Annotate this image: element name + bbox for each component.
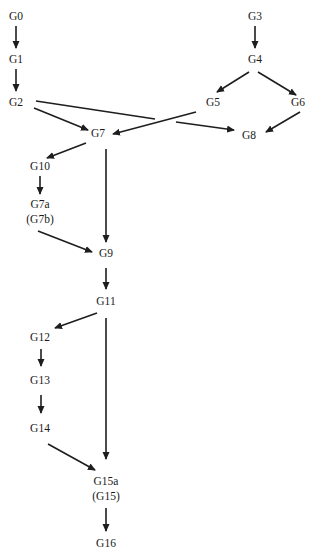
node-g6: G6	[291, 97, 305, 109]
edges-layer	[0, 0, 317, 559]
node-g12: G12	[30, 332, 50, 344]
arrow-icon	[217, 72, 249, 92]
node-g8: G8	[242, 130, 256, 142]
node-g3: G3	[248, 11, 262, 23]
arrow-icon	[38, 231, 92, 252]
edge-g2-to-g7	[34, 108, 88, 130]
node-g11: G11	[96, 296, 115, 308]
node-g4: G4	[248, 54, 262, 66]
arrow-icon	[34, 108, 88, 130]
edge-g11-to-g12	[55, 313, 97, 328]
edge-g4-to-g5	[217, 72, 249, 92]
arrow-icon	[258, 72, 296, 95]
node-g9: G9	[99, 248, 113, 260]
edge-g7a-to-g9	[38, 231, 92, 252]
edge-g7-to-g10	[47, 143, 86, 158]
node-g2: G2	[9, 97, 23, 109]
node-g13: G13	[30, 375, 50, 387]
arrow-icon	[266, 112, 300, 132]
node-g5: G5	[206, 97, 220, 109]
node-g0: G0	[9, 11, 23, 23]
node-g14: G14	[30, 423, 50, 435]
node-g15a-alias: (G15)	[92, 491, 119, 503]
node-g7a-alias: (G7b)	[26, 214, 53, 226]
arrow-icon	[176, 122, 234, 130]
edge-g14-to-g15a	[48, 444, 95, 470]
node-g7a: G7a	[30, 199, 49, 211]
dependency-graph: G0G1G2G3G4G5G6G7G8G10G7a(G7b)G9G11G12G13…	[0, 0, 317, 559]
arrow-icon	[55, 313, 97, 328]
arrow-icon	[47, 143, 86, 158]
edge-g4-to-g6	[258, 72, 296, 95]
node-g7: G7	[91, 128, 105, 140]
node-g16: G16	[96, 538, 116, 550]
node-g10: G10	[30, 161, 50, 173]
arrow-icon	[48, 444, 95, 470]
node-g15a: G15a	[94, 476, 119, 488]
edge-g2-to-g8	[36, 101, 234, 130]
node-g1: G1	[9, 54, 23, 66]
edge-g6-to-g8	[266, 112, 300, 132]
